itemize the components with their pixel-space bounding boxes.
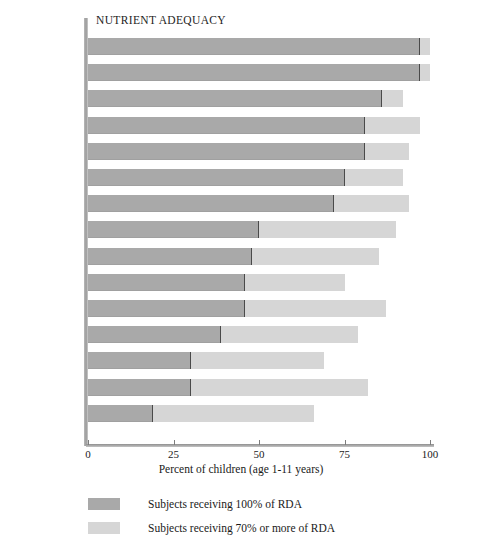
bar-segment-divider bbox=[190, 352, 191, 369]
bar-segment-divider bbox=[381, 90, 382, 107]
stacked-bar bbox=[88, 248, 379, 265]
stacked-bar bbox=[88, 221, 396, 238]
x-tick-label: 25 bbox=[168, 448, 179, 460]
bar-segment-divider bbox=[364, 143, 365, 160]
stacked-bar bbox=[88, 169, 403, 186]
stacked-bar bbox=[88, 143, 409, 160]
legend-item: Subjects receiving 100% of RDA bbox=[88, 494, 428, 518]
x-tick-mark bbox=[345, 440, 346, 445]
legend-label: Subjects receiving 70% or more of RDA bbox=[148, 518, 335, 538]
x-tick-label: 75 bbox=[339, 448, 350, 460]
bar-segment-divider bbox=[364, 117, 365, 134]
x-tick-label: 100 bbox=[422, 448, 439, 460]
bar-segment-full bbox=[88, 38, 420, 55]
bar-segment-full bbox=[88, 117, 365, 134]
bar-segment-divider bbox=[333, 195, 334, 212]
stacked-bar bbox=[88, 352, 324, 369]
legend-item: Subjects receiving 70% or more of RDA bbox=[88, 518, 428, 542]
stacked-bar bbox=[88, 64, 430, 81]
bar-segment-full bbox=[88, 64, 420, 81]
x-tick-mark bbox=[259, 440, 260, 445]
bar-segment-divider bbox=[220, 326, 221, 343]
chart-legend: Subjects receiving 100% of RDASubjects r… bbox=[88, 494, 428, 542]
bar-segment-full bbox=[88, 169, 345, 186]
stacked-bar bbox=[88, 274, 345, 291]
bar-segment-divider bbox=[258, 221, 259, 238]
bar-segment-full bbox=[88, 326, 221, 343]
bar-segment-full bbox=[88, 221, 259, 238]
bar-segment-divider bbox=[190, 379, 191, 396]
stacked-bar bbox=[88, 300, 386, 317]
bar-segment-full bbox=[88, 248, 252, 265]
x-tick-label: 0 bbox=[85, 448, 91, 460]
bar-segment-full bbox=[88, 300, 245, 317]
legend-swatch bbox=[88, 522, 120, 534]
stacked-bar bbox=[88, 195, 409, 212]
bar-segment-divider bbox=[344, 169, 345, 186]
legend-label: Subjects receiving 100% of RDA bbox=[148, 494, 302, 514]
bar-segment-divider bbox=[251, 248, 252, 265]
x-tick-mark bbox=[88, 440, 89, 445]
stacked-bar bbox=[88, 38, 430, 55]
stacked-bar bbox=[88, 379, 368, 396]
x-tick-mark bbox=[174, 440, 175, 445]
x-axis-label: Percent of children (age 1-11 years) bbox=[0, 463, 482, 475]
bar-segment-full bbox=[88, 352, 191, 369]
bar-segment-full bbox=[88, 274, 245, 291]
stacked-bar bbox=[88, 326, 358, 343]
bar-segment-divider bbox=[244, 274, 245, 291]
bar-segment-full bbox=[88, 90, 382, 107]
bar-segment-divider bbox=[419, 64, 420, 81]
stacked-bar bbox=[88, 405, 314, 422]
bar-segment-divider bbox=[419, 38, 420, 55]
nutrient-adequacy-chart: NUTRIENT ADEQUACY ProteinRiboflavinVitam… bbox=[0, 0, 482, 548]
bar-segment-full bbox=[88, 379, 191, 396]
bar-segment-divider bbox=[152, 405, 153, 422]
stacked-bar bbox=[88, 90, 403, 107]
x-tick-mark bbox=[430, 440, 431, 445]
bar-segment-full bbox=[88, 195, 334, 212]
bar-segment-full bbox=[88, 143, 365, 160]
legend-swatch bbox=[88, 498, 120, 510]
x-tick-label: 50 bbox=[254, 448, 265, 460]
bar-segment-full bbox=[88, 405, 153, 422]
stacked-bar bbox=[88, 117, 420, 134]
bar-segment-divider bbox=[244, 300, 245, 317]
